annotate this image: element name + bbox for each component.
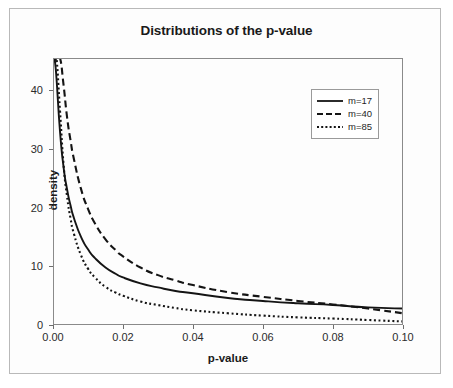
- y-tick-label: 30: [21, 143, 43, 155]
- y-tick-mark: [49, 90, 53, 91]
- x-tick-label: 0.06: [238, 331, 288, 343]
- y-tick-label: 0: [21, 319, 43, 331]
- plot-frame: [53, 58, 403, 325]
- x-tick-label: 0.02: [98, 331, 148, 343]
- x-tick-label: 0.10: [378, 331, 428, 343]
- x-tick-mark: [263, 325, 264, 329]
- x-tick-label: 0.08: [308, 331, 358, 343]
- plot-area: density: [53, 58, 403, 325]
- y-axis-title: density: [47, 170, 59, 210]
- x-tick-mark: [403, 325, 404, 329]
- y-tick-label: 20: [21, 202, 43, 214]
- x-axis-title: p-value: [53, 352, 403, 364]
- y-tick-mark: [49, 149, 53, 150]
- y-tick-mark: [49, 208, 53, 209]
- x-tick-mark: [193, 325, 194, 329]
- x-tick-mark: [123, 325, 124, 329]
- x-tick-label: 0.04: [168, 331, 218, 343]
- x-tick-mark: [53, 325, 54, 329]
- chart-title: Distributions of the p-value: [0, 23, 453, 38]
- x-tick-mark: [333, 325, 334, 329]
- y-tick-label: 40: [21, 84, 43, 96]
- x-tick-label: 0.00: [28, 331, 78, 343]
- y-tick-mark: [49, 266, 53, 267]
- y-tick-label: 10: [21, 260, 43, 272]
- chart-figure: Distributions of the p-value density 010…: [0, 0, 453, 388]
